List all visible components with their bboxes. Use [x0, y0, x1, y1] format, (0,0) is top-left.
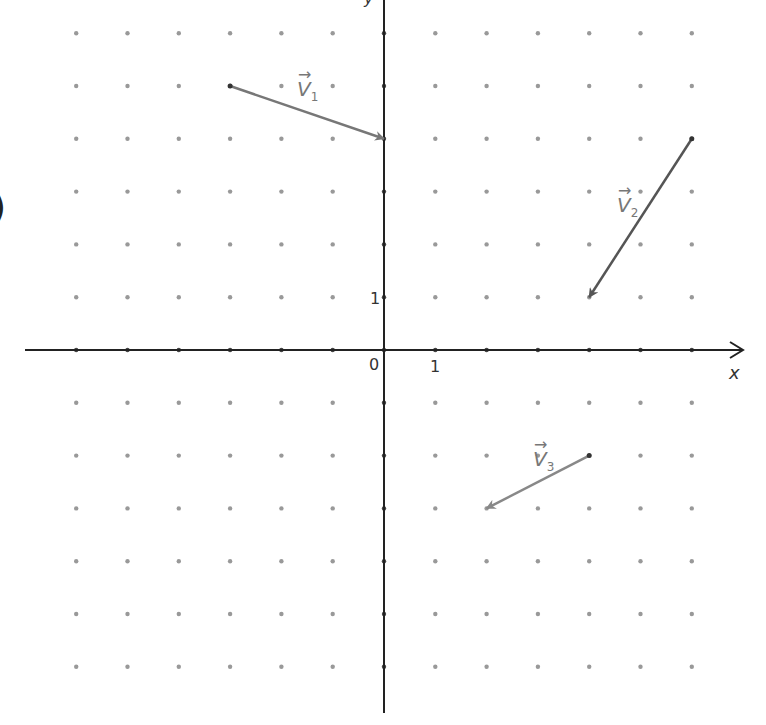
grid-dot	[74, 31, 78, 35]
grid-dot	[331, 84, 335, 88]
grid-dot	[279, 137, 283, 141]
grid-dot	[484, 559, 488, 563]
grid-dot	[638, 189, 642, 193]
grid-dot	[74, 189, 78, 193]
grid-dot	[125, 137, 129, 141]
grid-dot	[279, 84, 283, 88]
grid-dot	[74, 295, 78, 299]
grid-dot	[536, 137, 540, 141]
grid-dot	[690, 189, 694, 193]
grid-dot	[587, 189, 591, 193]
grid-dot	[638, 242, 642, 246]
grid-dot	[536, 242, 540, 246]
grid-dot	[228, 137, 232, 141]
grid-dot	[536, 84, 540, 88]
vector-tail-dot	[689, 136, 694, 141]
grid-dot	[484, 665, 488, 669]
grid-dot	[331, 506, 335, 510]
grid-dot	[177, 559, 181, 563]
grid-dot	[177, 137, 181, 141]
grid-dot	[74, 84, 78, 88]
grid-dot	[587, 612, 591, 616]
grid-dot	[433, 612, 437, 616]
grid-dot	[484, 84, 488, 88]
grid-dot	[690, 242, 694, 246]
y-tick-label: 1	[370, 289, 380, 308]
grid-dot	[536, 506, 540, 510]
grid-dot	[177, 612, 181, 616]
grid-dot	[125, 189, 129, 193]
grid-dot	[279, 506, 283, 510]
grid-dot	[587, 665, 591, 669]
grid-dot	[484, 137, 488, 141]
grid-dot	[536, 295, 540, 299]
grid-dot	[536, 559, 540, 563]
grid-dot	[536, 401, 540, 405]
grid-dot	[177, 665, 181, 669]
grid-dot	[638, 84, 642, 88]
grid-dot	[279, 31, 283, 35]
grid-dot	[279, 612, 283, 616]
grid-dot	[484, 295, 488, 299]
grid-dot	[587, 242, 591, 246]
grid-dot	[587, 559, 591, 563]
y-axis-label: y	[363, 0, 374, 8]
grid-dot	[74, 137, 78, 141]
grid-dot	[125, 84, 129, 88]
grid-dot	[279, 242, 283, 246]
grid-dot	[331, 612, 335, 616]
grid-dot	[638, 401, 642, 405]
grid-dot	[228, 665, 232, 669]
grid-dot	[279, 453, 283, 457]
grid-dot	[74, 506, 78, 510]
grid-dot	[433, 242, 437, 246]
vector-arrow-accent-icon: →	[298, 65, 311, 84]
grid-dot	[177, 84, 181, 88]
grid-dot	[177, 506, 181, 510]
grid-dot	[228, 295, 232, 299]
grid-dot	[433, 31, 437, 35]
grid-dot	[228, 401, 232, 405]
grid-dot	[331, 137, 335, 141]
grid-dot	[690, 559, 694, 563]
grid-dot	[228, 559, 232, 563]
grid-dot	[433, 506, 437, 510]
coordinate-plane: x y 0 1 1 V1→V2→V3→	[0, 0, 766, 725]
grid-dot	[587, 84, 591, 88]
grid-dot	[690, 665, 694, 669]
grid-dot	[690, 453, 694, 457]
grid-dot	[228, 612, 232, 616]
grid-dot	[331, 242, 335, 246]
grid-dot	[331, 665, 335, 669]
grid-dot	[690, 612, 694, 616]
grid-dot	[228, 242, 232, 246]
grid-dot	[125, 612, 129, 616]
grid-dot	[177, 31, 181, 35]
grid-dot	[587, 401, 591, 405]
x-axis-label: x	[728, 362, 740, 383]
grid-dot	[74, 453, 78, 457]
grid-dot	[587, 31, 591, 35]
vector-tail-dot	[228, 84, 233, 89]
grid-dot	[433, 401, 437, 405]
vector-v3: V3→	[487, 435, 592, 508]
vector-arrow-accent-icon: →	[534, 435, 547, 454]
grid-dot	[177, 295, 181, 299]
grid-dot	[125, 559, 129, 563]
grid-dot	[228, 31, 232, 35]
origin-label: 0	[369, 355, 379, 374]
grid-dot	[536, 189, 540, 193]
grid-dot	[690, 295, 694, 299]
grid-dot	[125, 242, 129, 246]
grid-dot	[125, 453, 129, 457]
vector-arrow-accent-icon: →	[618, 181, 631, 200]
grid-dot	[331, 453, 335, 457]
grid-dot	[484, 453, 488, 457]
grid-dot	[125, 401, 129, 405]
grid-dot	[74, 559, 78, 563]
grid-dot	[638, 453, 642, 457]
grid-dot	[125, 665, 129, 669]
grid-dot	[331, 559, 335, 563]
grid-dot	[228, 189, 232, 193]
grid-dot	[638, 31, 642, 35]
